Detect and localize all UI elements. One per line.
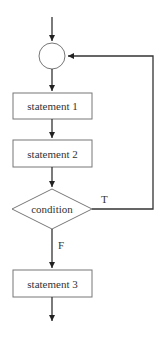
flowchart: statement 1 statement 2 condition T F st… bbox=[0, 0, 161, 338]
statement3-label: statement 3 bbox=[27, 278, 78, 290]
statement3-node: statement 3 bbox=[13, 270, 92, 297]
condition-label: condition bbox=[31, 203, 73, 215]
statement1-label: statement 1 bbox=[27, 100, 77, 112]
false-branch-label: F bbox=[58, 239, 64, 251]
condition-node: condition bbox=[12, 189, 92, 229]
true-branch-label: T bbox=[101, 193, 108, 205]
statement1-node: statement 1 bbox=[13, 93, 92, 119]
junction-node bbox=[39, 43, 65, 69]
statement2-label: statement 2 bbox=[27, 148, 77, 160]
statement2-node: statement 2 bbox=[13, 140, 92, 167]
true-branch-loop-arrow bbox=[68, 56, 153, 209]
